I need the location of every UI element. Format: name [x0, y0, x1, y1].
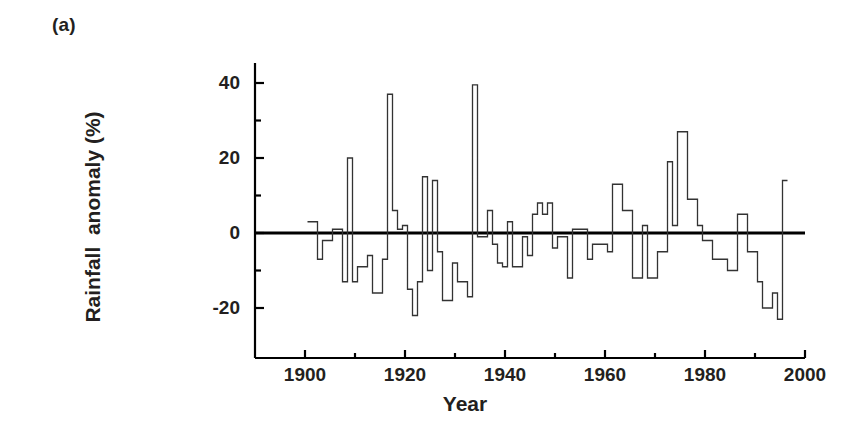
- x-tick-label: 2000: [765, 364, 845, 386]
- x-tick-label: 1980: [665, 364, 745, 386]
- x-tick-label: 1960: [565, 364, 645, 386]
- x-tick-label: 1900: [265, 364, 345, 386]
- x-tick-label: 1940: [465, 364, 545, 386]
- y-tick-label: 0: [180, 222, 240, 244]
- y-tick-label: -20: [180, 297, 240, 319]
- data-series-rainfall-anomaly: [308, 85, 788, 319]
- y-tick-label: 40: [180, 72, 240, 94]
- x-tick-label: 1920: [365, 364, 445, 386]
- figure-panel-a: (a) Rainfall anomaly (%) Year -2002040 1…: [0, 0, 863, 436]
- x-axis-tick-labels: 190019201940196019802000: [0, 358, 863, 398]
- y-tick-label: 20: [180, 147, 240, 169]
